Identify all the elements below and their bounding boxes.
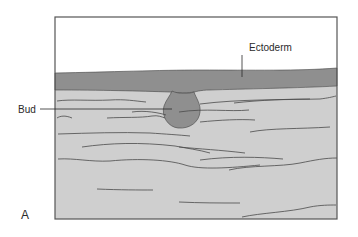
panel-label: A (21, 208, 29, 222)
bud-shape (163, 91, 200, 128)
bud-label: Bud (18, 104, 36, 115)
tooth-bud-diagram: Ectoderm Bud A (0, 0, 358, 237)
ectoderm-label: Ectoderm (249, 42, 292, 53)
